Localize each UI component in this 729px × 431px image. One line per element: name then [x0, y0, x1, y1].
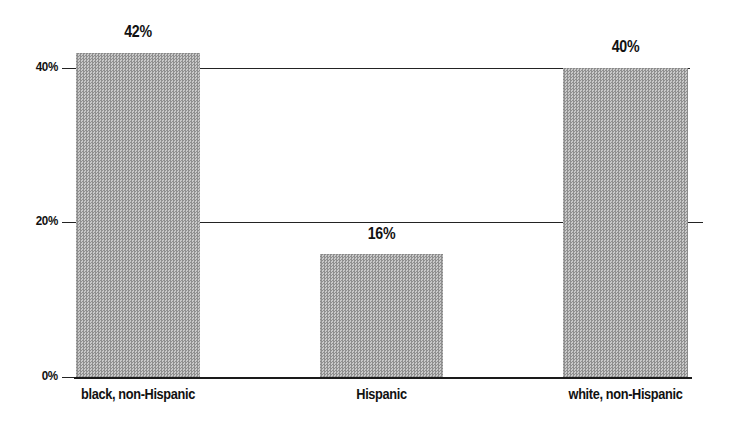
category-label-black-non-hispanic: black, non-Hispanic: [66, 386, 210, 402]
bar-value-label-hispanic: 16%: [329, 224, 435, 243]
bar-black-non-hispanic[interactable]: [76, 53, 200, 377]
bar-chart: 40% 20% 0% 42% 16% 40% black, non-Hispan…: [0, 0, 729, 431]
bar-value-label-white-non-hispanic: 40%: [572, 37, 680, 56]
plot-area: 40% 20% 0% 42% 16% 40% black, non-Hispan…: [0, 0, 729, 431]
y-tick-label-40: 40%: [36, 59, 58, 74]
y-tick-label-0: 0%: [42, 368, 58, 383]
x-axis-baseline: [74, 377, 692, 379]
tick-20-left: [62, 222, 75, 223]
category-label-white-non-hispanic: white, non-Hispanic: [553, 386, 698, 402]
bar-hispanic[interactable]: [320, 254, 443, 377]
tick-40-left: [62, 68, 75, 69]
bar-value-label-black-non-hispanic: 42%: [85, 22, 192, 41]
bar-white-non-hispanic[interactable]: [563, 68, 688, 377]
category-label-hispanic: Hispanic: [310, 386, 453, 402]
y-tick-label-20: 20%: [36, 213, 58, 228]
tick-20-right: [690, 222, 703, 223]
